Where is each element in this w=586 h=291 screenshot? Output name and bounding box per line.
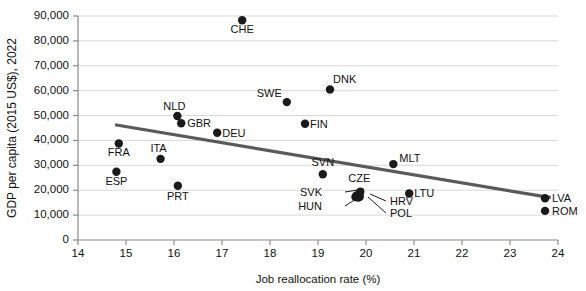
- x-tick-label: 16: [168, 247, 181, 259]
- x-tick-label: 14: [72, 247, 85, 259]
- point-label-rom: ROM: [552, 205, 578, 217]
- point-label-fra: FRA: [108, 146, 131, 158]
- x-tick-label: 21: [408, 247, 421, 259]
- scatter-chart: 010,00020,00030,00040,00050,00060,00070,…: [0, 0, 586, 291]
- point-label-pol: POL: [390, 207, 412, 219]
- data-point-rom[interactable]: [541, 207, 549, 215]
- data-point-prt[interactable]: [174, 182, 182, 190]
- point-label-ita: ITA: [150, 142, 167, 154]
- x-tick-label: 20: [360, 247, 373, 259]
- x-axis-title: Job reallocation rate (%): [256, 273, 381, 285]
- data-point-nld[interactable]: [173, 112, 181, 120]
- point-label-ltu: LTU: [414, 187, 434, 199]
- point-label-svn: SVN: [311, 156, 334, 168]
- y-tick-label: 30,000: [34, 158, 69, 170]
- x-tick-label: 24: [552, 247, 565, 259]
- point-label-svk: SVK: [300, 186, 323, 198]
- y-tick-label: 70,000: [34, 59, 69, 71]
- data-point-mlt[interactable]: [389, 160, 397, 168]
- x-tick-label: 18: [264, 247, 277, 259]
- data-point-dnk[interactable]: [326, 85, 334, 93]
- y-tick-label: 0: [63, 233, 69, 245]
- x-tick-label: 23: [504, 247, 517, 259]
- y-tick-label: 60,000: [34, 84, 69, 96]
- y-tick-label: 20,000: [34, 183, 69, 195]
- data-point-lva[interactable]: [541, 194, 549, 202]
- y-axis-title: GDP per capita (2015 US$), 2022: [5, 38, 19, 218]
- point-label-che: CHE: [231, 23, 254, 35]
- point-label-prt: PRT: [167, 190, 189, 202]
- point-label-dnk: DNK: [333, 73, 357, 85]
- data-point-deu[interactable]: [213, 129, 221, 137]
- data-point-fin[interactable]: [301, 120, 309, 128]
- data-point-pol[interactable]: [354, 193, 362, 201]
- x-tick-label: 19: [312, 247, 325, 259]
- chart-canvas: 010,00020,00030,00040,00050,00060,00070,…: [0, 0, 586, 291]
- x-tick-label: 22: [456, 247, 469, 259]
- point-label-hun: HUN: [298, 200, 322, 212]
- point-label-esp: ESP: [105, 175, 127, 187]
- point-label-deu: DEU: [222, 127, 245, 139]
- data-point-ita[interactable]: [156, 155, 164, 163]
- y-tick-label: 80,000: [34, 34, 69, 46]
- point-label-hrv: HRV: [390, 195, 414, 207]
- callout-leader-hrv: [370, 194, 386, 201]
- data-point-svn[interactable]: [319, 170, 327, 178]
- point-label-nld: NLD: [163, 100, 185, 112]
- point-label-mlt: MLT: [399, 152, 420, 164]
- data-point-swe[interactable]: [283, 98, 291, 106]
- y-tick-label: 90,000: [34, 9, 69, 21]
- y-tick-label: 50,000: [34, 109, 69, 121]
- data-point-gbr[interactable]: [177, 119, 185, 127]
- point-label-swe: SWE: [257, 87, 282, 99]
- x-tick-label: 17: [216, 247, 229, 259]
- y-tick-label: 10,000: [34, 208, 69, 220]
- point-label-cze: CZE: [348, 172, 370, 184]
- point-label-fin: FIN: [310, 118, 328, 130]
- x-tick-label: 15: [120, 247, 133, 259]
- point-label-gbr: GBR: [187, 117, 211, 129]
- point-label-lva: LVA: [552, 192, 572, 204]
- y-tick-label: 40,000: [34, 133, 69, 145]
